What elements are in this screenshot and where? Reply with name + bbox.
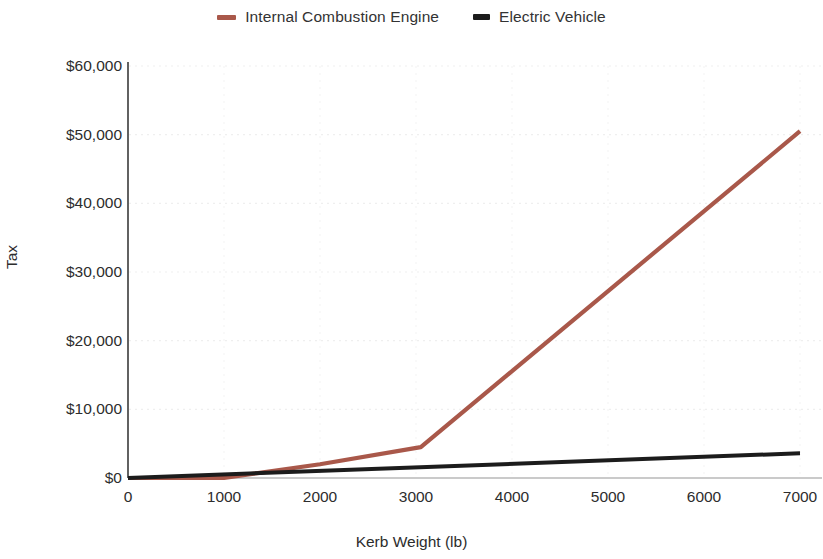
x-tick-label: 6000: [687, 488, 721, 506]
x-axis-title: Kerb Weight (lb): [0, 533, 823, 551]
x-tick-label: 3000: [399, 488, 433, 506]
plot-area: $0$10,000$20,000$30,000$40,000$50,000$60…: [0, 0, 823, 559]
x-tick-label: 1000: [207, 488, 241, 506]
x-axis-tick-labels: 01000200030004000500060007000: [0, 0, 823, 559]
line-chart: Internal Combustion Engine Electric Vehi…: [0, 0, 823, 559]
x-tick-label: 0: [124, 488, 133, 506]
x-tick-label: 2000: [303, 488, 337, 506]
y-axis-title: Tax: [3, 227, 21, 287]
x-tick-label: 5000: [591, 488, 625, 506]
x-tick-label: 4000: [495, 488, 529, 506]
x-tick-label: 7000: [783, 488, 817, 506]
